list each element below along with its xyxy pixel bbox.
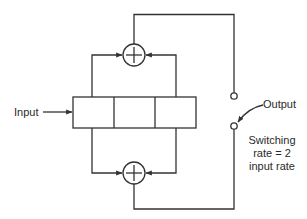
upper-left-tap <box>92 55 122 97</box>
upper-terminal <box>231 93 237 99</box>
output-pointer <box>238 105 263 122</box>
switching-note: Switching rate = 2 input rate <box>240 134 304 173</box>
upper-right-tap <box>146 55 176 97</box>
upper-output-wire <box>134 15 234 94</box>
lower-right-tap <box>146 128 176 173</box>
lower-terminal <box>231 123 237 129</box>
lower-left-tap <box>92 128 122 173</box>
lower-output-wire <box>134 129 234 209</box>
note-line-3: input rate <box>240 160 304 173</box>
shift-register <box>73 97 196 128</box>
output-label: Output <box>263 98 296 111</box>
encoder-diagram: Input Output Switching rate = 2 input ra… <box>0 0 307 219</box>
diagram-graphics <box>0 0 307 219</box>
note-line-2: rate = 2 <box>240 147 304 160</box>
input-label: Input <box>14 106 38 119</box>
note-line-1: Switching <box>240 134 304 147</box>
